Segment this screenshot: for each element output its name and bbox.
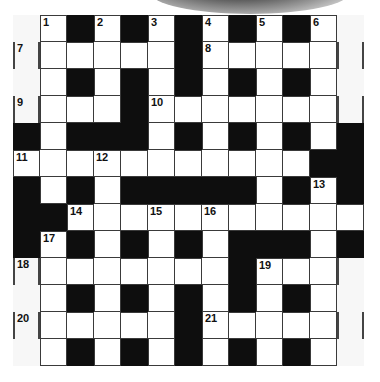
answer-cell[interactable] [283,150,310,177]
answer-cell[interactable] [310,231,337,258]
answer-cell[interactable] [256,69,283,96]
answer-cell[interactable] [40,312,67,339]
answer-cell[interactable] [337,204,364,231]
answer-cell[interactable] [121,42,148,69]
answer-cell[interactable] [256,42,283,69]
answer-cell[interactable]: 21 [202,312,229,339]
answer-cell[interactable]: 10 [148,96,175,123]
answer-cell[interactable]: 15 [148,204,175,231]
answer-cell[interactable] [94,258,121,285]
answer-cell[interactable] [94,312,121,339]
answer-cell[interactable] [40,339,67,366]
answer-cell[interactable] [94,177,121,204]
answer-cell[interactable] [229,312,256,339]
answer-cell[interactable]: 19 [256,258,283,285]
answer-cell[interactable] [148,69,175,96]
answer-cell[interactable] [175,96,202,123]
answer-cell[interactable] [202,258,229,285]
answer-cell[interactable] [67,96,94,123]
answer-cell[interactable] [67,258,94,285]
answer-cell[interactable] [202,339,229,366]
answer-cell[interactable] [310,69,337,96]
answer-cell[interactable] [67,150,94,177]
answer-cell[interactable] [310,312,337,339]
answer-cell[interactable]: 6 [310,15,337,42]
answer-cell[interactable] [40,177,67,204]
answer-cell[interactable] [310,96,337,123]
answer-cell[interactable] [310,258,337,285]
answer-cell[interactable] [283,258,310,285]
answer-cell[interactable] [256,96,283,123]
answer-cell[interactable] [310,339,337,366]
answer-cell[interactable] [256,150,283,177]
answer-cell[interactable] [67,42,94,69]
answer-cell[interactable] [121,258,148,285]
answer-cell[interactable] [40,42,67,69]
answer-cell[interactable] [229,42,256,69]
answer-cell[interactable] [94,96,121,123]
answer-cell[interactable] [256,123,283,150]
answer-cell[interactable] [94,69,121,96]
answer-cell[interactable] [94,339,121,366]
answer-cell[interactable] [40,69,67,96]
answer-cell[interactable] [121,312,148,339]
answer-cell[interactable] [121,150,148,177]
answer-cell[interactable]: 12 [94,150,121,177]
answer-cell[interactable] [94,231,121,258]
answer-cell[interactable]: 17 [40,231,67,258]
answer-cell[interactable] [148,42,175,69]
answer-cell[interactable] [256,312,283,339]
answer-cell[interactable] [229,96,256,123]
answer-cell[interactable] [175,258,202,285]
answer-cell[interactable] [148,231,175,258]
answer-cell[interactable]: 16 [202,204,229,231]
answer-cell[interactable] [310,123,337,150]
answer-cell[interactable]: 8 [202,42,229,69]
answer-cell[interactable] [229,204,256,231]
answer-cell[interactable] [40,123,67,150]
answer-cell[interactable] [256,339,283,366]
answer-cell[interactable] [148,258,175,285]
answer-cell[interactable] [283,42,310,69]
answer-cell[interactable]: 3 [148,15,175,42]
answer-cell[interactable] [175,204,202,231]
answer-cell[interactable] [121,204,148,231]
answer-cell[interactable] [229,150,256,177]
answer-cell[interactable] [67,312,94,339]
answer-cell[interactable]: 5 [256,15,283,42]
answer-cell[interactable]: 4 [202,15,229,42]
answer-cell[interactable] [148,285,175,312]
answer-cell[interactable]: 14 [67,204,94,231]
answer-cell[interactable] [148,339,175,366]
answer-cell[interactable] [256,204,283,231]
answer-cell[interactable] [202,285,229,312]
answer-cell[interactable] [283,204,310,231]
answer-cell[interactable] [40,96,67,123]
answer-cell[interactable] [256,177,283,204]
answer-cell[interactable] [94,204,121,231]
answer-cell[interactable]: 1 [40,15,67,42]
answer-cell[interactable] [148,312,175,339]
answer-cell[interactable] [202,231,229,258]
answer-cell[interactable] [310,204,337,231]
answer-cell[interactable] [202,96,229,123]
answer-cell[interactable] [202,123,229,150]
answer-cell[interactable] [40,285,67,312]
answer-cell[interactable] [40,150,67,177]
answer-cell[interactable] [202,69,229,96]
answer-cell[interactable] [202,150,229,177]
answer-cell[interactable] [94,42,121,69]
answer-cell[interactable]: 13 [310,177,337,204]
answer-cell[interactable]: 2 [94,15,121,42]
answer-cell[interactable] [94,285,121,312]
answer-cell[interactable] [310,42,337,69]
answer-cell[interactable] [148,150,175,177]
answer-cell[interactable] [40,258,67,285]
answer-cell[interactable] [148,123,175,150]
answer-cell[interactable] [175,150,202,177]
answer-cell[interactable] [256,285,283,312]
answer-cell[interactable]: 11 [13,150,40,177]
answer-cell[interactable] [310,285,337,312]
answer-cell[interactable] [283,96,310,123]
answer-cell[interactable] [283,312,310,339]
